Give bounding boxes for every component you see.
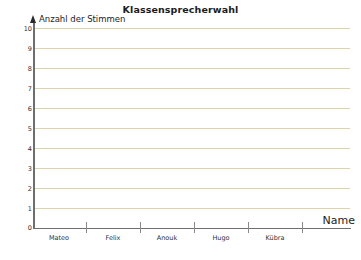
y-tick-label: 5 bbox=[6, 125, 32, 133]
x-axis-label-mateo: Mateo bbox=[49, 234, 69, 242]
gridline-6 bbox=[34, 108, 350, 109]
y-tick-label: 2 bbox=[6, 185, 32, 193]
gridline-7 bbox=[34, 88, 350, 89]
y-axis-line bbox=[33, 22, 35, 229]
gridline-2 bbox=[34, 188, 350, 189]
x-axis-tick bbox=[86, 222, 87, 233]
plot-area bbox=[34, 28, 350, 228]
x-axis-line bbox=[33, 228, 351, 230]
y-tick-label: 4 bbox=[6, 145, 32, 153]
x-axis-label-hugo: Hugo bbox=[212, 234, 229, 242]
gridline-4 bbox=[34, 148, 350, 149]
x-axis-label-kubra: Kübra bbox=[266, 234, 285, 242]
x-axis-tick bbox=[194, 222, 195, 233]
y-tick-label: 1 bbox=[6, 205, 32, 213]
x-axis-tick bbox=[302, 222, 303, 233]
y-axis-title: Anzahl der Stimmen bbox=[39, 14, 125, 24]
x-axis-label-felix: Felix bbox=[106, 234, 121, 242]
x-axis-title: Name bbox=[323, 214, 355, 227]
gridline-10 bbox=[34, 28, 350, 29]
gridline-5 bbox=[34, 128, 350, 129]
y-tick-label: 8 bbox=[6, 65, 32, 73]
y-tick-label: 0 bbox=[6, 224, 32, 232]
chart-canvas: Klassensprecherwahl Anzahl der Stimmen N… bbox=[0, 0, 361, 260]
gridline-3 bbox=[34, 168, 350, 169]
gridline-1 bbox=[34, 208, 350, 209]
x-axis-label-anouk: Anouk bbox=[157, 234, 177, 242]
gridline-9 bbox=[34, 48, 350, 49]
y-tick-label: 10 bbox=[6, 25, 32, 33]
gridline-8 bbox=[34, 68, 350, 69]
x-axis-tick bbox=[140, 222, 141, 233]
y-tick-label: 6 bbox=[6, 105, 32, 113]
y-axis-ticks: 10 9 8 7 6 5 4 3 2 1 0 bbox=[0, 0, 32, 260]
y-tick-label: 3 bbox=[6, 165, 32, 173]
y-tick-label: 7 bbox=[6, 85, 32, 93]
x-axis-tick bbox=[248, 222, 249, 233]
y-tick-label: 9 bbox=[6, 45, 32, 53]
